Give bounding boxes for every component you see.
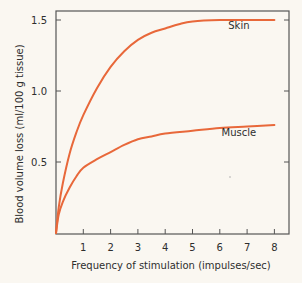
x-tick-label: 7 bbox=[244, 242, 250, 253]
x-tick-label: 5 bbox=[189, 242, 195, 253]
x-tick-label: 1 bbox=[80, 242, 86, 253]
x-tick-label: 8 bbox=[271, 242, 277, 253]
series-labels: SkinMuscle bbox=[222, 20, 257, 139]
x-tick-label: 6 bbox=[217, 242, 223, 253]
x-axis-ticks: 12345678 bbox=[80, 229, 277, 253]
y-tick-label: 1.0 bbox=[31, 86, 47, 97]
series-label-skin: Skin bbox=[228, 20, 249, 31]
plot-frame bbox=[56, 11, 289, 234]
y-tick-label: 1.5 bbox=[31, 15, 47, 26]
x-tick-label: 2 bbox=[107, 242, 113, 253]
chart: 0.51.01.5 12345678 SkinMuscle Frequency … bbox=[0, 0, 302, 283]
y-tick-label: 0.5 bbox=[31, 157, 47, 168]
y-axis-label: Blood volume loss (ml/100 g tissue) bbox=[14, 44, 25, 223]
speck-mark bbox=[229, 176, 231, 178]
x-tick-label: 3 bbox=[135, 242, 141, 253]
series-lines bbox=[56, 20, 274, 233]
x-tick-label: 4 bbox=[162, 242, 168, 253]
x-axis-label: Frequency of stimulation (impulses/sec) bbox=[71, 260, 271, 271]
y-axis-ticks: 0.51.01.5 bbox=[31, 15, 289, 168]
series-label-muscle: Muscle bbox=[222, 127, 257, 138]
series-line-muscle bbox=[56, 125, 274, 233]
